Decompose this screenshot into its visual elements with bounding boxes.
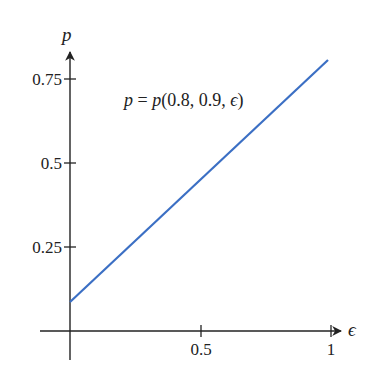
annot-p: p — [122, 90, 133, 110]
y-tick-label-05: 0.5 — [41, 154, 62, 173]
y-tick-label-075: 0.75 — [32, 70, 62, 89]
x-tick-label-05: 0.5 — [190, 340, 211, 359]
x-axis-label: ϵ — [348, 319, 357, 340]
annot-eq: = — [133, 90, 152, 110]
annot-close: ) — [237, 90, 243, 111]
annot-args: (0.8, 0.9, — [161, 90, 230, 111]
curve-annotation: p = p(0.8, 0.9, ϵ) — [122, 90, 243, 111]
x-tick-label-1: 1 — [327, 340, 336, 359]
y-tick-label-025: 0.25 — [32, 238, 62, 257]
chart-canvas: 0.25 0.5 0.75 0.5 1 p ϵ p = p(0.8, 0.9, … — [0, 0, 377, 374]
y-axis-label: p — [60, 24, 72, 45]
annot-p2: p — [150, 90, 161, 110]
